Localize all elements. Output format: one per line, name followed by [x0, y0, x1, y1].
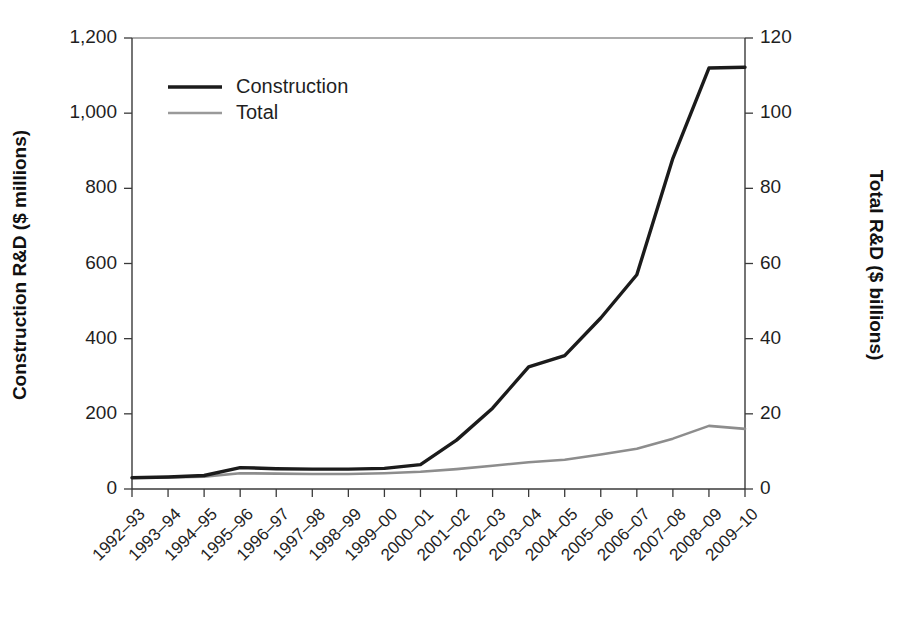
left-axis-ticks: 02004006008001,0001,200	[69, 26, 132, 498]
series-line-construction	[132, 67, 745, 477]
x-axis-ticks	[132, 489, 745, 497]
left-axis-tick-label: 200	[85, 402, 117, 423]
left-axis-tick-label: 600	[85, 252, 117, 273]
left-axis-title: Construction R&D ($ millions)	[9, 130, 30, 400]
right-axis-tick-label: 40	[760, 327, 781, 348]
right-axis-tick-label: 100	[760, 101, 792, 122]
right-axis-ticks: 020406080100120	[745, 26, 792, 498]
plot-frame	[132, 38, 745, 489]
legend-label-construction: Construction	[236, 75, 348, 97]
chart-container: 02004006008001,0001,200 020406080100120 …	[0, 0, 902, 617]
legend-label-total: Total	[236, 101, 278, 123]
right-axis-tick-label: 0	[760, 477, 771, 498]
left-axis-tick-label: 400	[85, 327, 117, 348]
left-axis-tick-label: 1,000	[69, 101, 117, 122]
series-lines	[132, 67, 745, 477]
right-axis-tick-label: 120	[760, 26, 792, 47]
right-axis-tick-label: 20	[760, 402, 781, 423]
x-axis-category-labels: 1992–931993–941994–951995–961996–971997–…	[89, 504, 762, 564]
left-axis-tick-label: 0	[106, 477, 117, 498]
left-axis-tick-label: 1,200	[69, 26, 117, 47]
right-axis-tick-label: 60	[760, 252, 781, 273]
chart-legend: Construction Total	[168, 75, 348, 123]
dual-axis-line-chart: 02004006008001,0001,200 020406080100120 …	[0, 0, 902, 617]
right-axis-tick-label: 80	[760, 176, 781, 197]
right-axis-title: Total R&D ($ billions)	[866, 170, 887, 361]
left-axis-tick-label: 800	[85, 176, 117, 197]
